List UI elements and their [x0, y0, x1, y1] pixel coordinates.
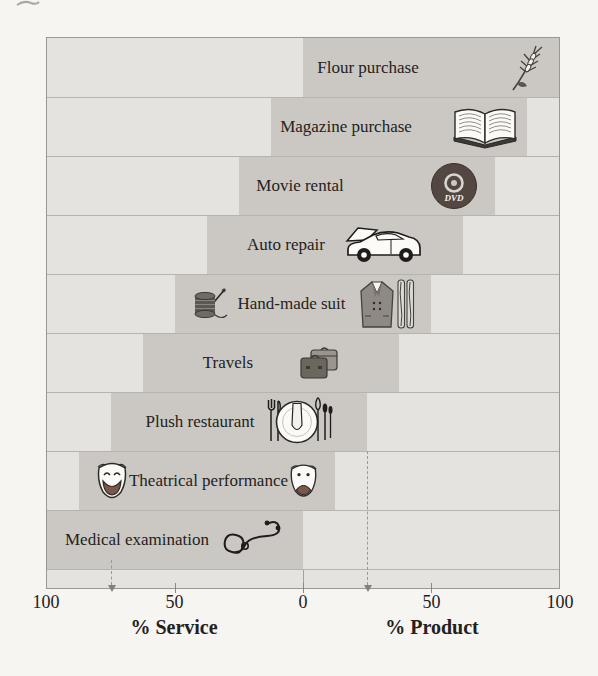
suitcases-icon	[299, 347, 339, 380]
goods-services-continuum-chart: Flour purchase Magazine purchase	[46, 37, 560, 589]
stethoscope-icon	[221, 516, 285, 564]
row-label: Movie rental	[256, 176, 343, 196]
tick-label-product-100: 100	[547, 592, 574, 613]
row-label: Medical examination	[65, 530, 209, 550]
tick-label-zero: 0	[299, 592, 308, 613]
down-arrow-icon	[364, 585, 372, 592]
band-magazine-purchase: Magazine purchase	[271, 98, 527, 156]
band-auto-repair: Auto repair	[207, 216, 463, 274]
row-hand-made-suit: Hand-made suit	[47, 274, 559, 333]
tick-label-service-50: 50	[166, 592, 184, 613]
row-travels: Travels	[47, 333, 559, 392]
dvd-disc-text: DVD	[443, 193, 464, 203]
band-plush-restaurant: Plush restaurant	[111, 393, 367, 451]
row-label: Auto repair	[247, 235, 325, 255]
band-travels: Travels	[143, 334, 399, 392]
row-label: Magazine purchase	[280, 117, 412, 137]
suit-and-fabric-icon	[355, 278, 415, 330]
row-label: Plush restaurant	[145, 412, 254, 432]
band-hand-made-suit: Hand-made suit	[175, 275, 431, 333]
plate-napkin-cutlery-icon	[265, 396, 333, 448]
tick-label-product-50: 50	[423, 592, 441, 613]
row-label: Travels	[203, 353, 253, 373]
row-auto-repair: Auto repair	[47, 215, 559, 274]
row-theatrical-performance: Theatrical performance	[47, 451, 559, 510]
band-flour-purchase: Flour purchase	[303, 38, 559, 97]
comedy-mask-icon	[289, 462, 318, 500]
service-marker-arrow	[111, 560, 112, 585]
tick-label-service-100: 100	[33, 592, 60, 613]
down-arrow-icon	[108, 585, 116, 592]
row-flour-purchase: Flour purchase	[47, 38, 559, 97]
band-movie-rental: Movie rental DVD	[239, 157, 495, 215]
product-axis-title: % Product	[385, 616, 479, 639]
continuum-figure-page: Flour purchase Magazine purchase	[0, 0, 598, 676]
row-label: Theatrical performance	[129, 471, 288, 491]
car-open-hood-icon	[343, 224, 423, 266]
scan-artifact	[16, 0, 40, 8]
dvd-disc-icon: DVD	[430, 162, 478, 210]
product-marker-arrow	[367, 451, 368, 585]
row-medical-examination: Medical examination	[47, 510, 559, 569]
row-movie-rental: Movie rental DVD	[47, 156, 559, 215]
row-label: Hand-made suit	[237, 294, 345, 314]
wheat-ear-icon	[507, 45, 545, 91]
x-axis-tick-labels: 100 50 0 50 100	[46, 592, 560, 614]
service-axis-title: % Service	[130, 616, 217, 639]
row-label: Flour purchase	[317, 58, 419, 78]
band-medical-examination: Medical examination	[47, 511, 303, 569]
band-theatrical-performance: Theatrical performance	[79, 452, 335, 510]
open-magazine-icon	[452, 105, 518, 149]
comedy-mask-icon	[96, 461, 128, 501]
row-plush-restaurant: Plush restaurant	[47, 392, 559, 451]
thread-spool-icon	[191, 286, 228, 323]
row-magazine-purchase: Magazine purchase	[47, 97, 559, 156]
